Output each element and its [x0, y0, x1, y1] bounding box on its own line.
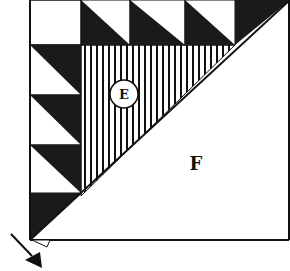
label-e: E [119, 87, 129, 102]
quilt-block-diagram: E F [0, 0, 290, 271]
label-e-badge: E [110, 80, 138, 108]
top-row-triangles [81, 0, 290, 45]
label-f: F [190, 153, 203, 174]
seam-notch [32, 240, 50, 247]
left-column-triangles [30, 0, 81, 240]
